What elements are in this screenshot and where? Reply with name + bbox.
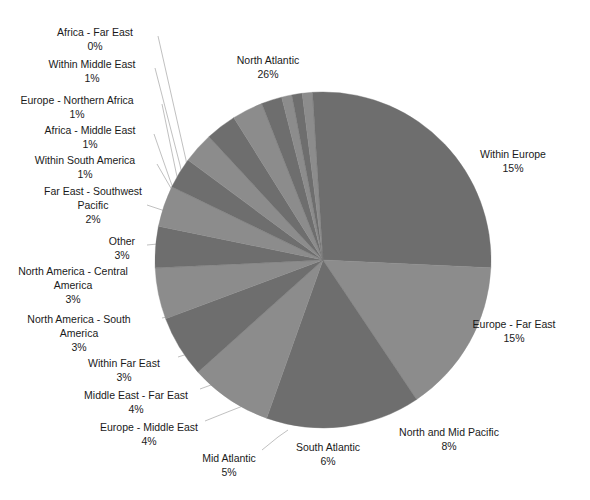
pie-chart-canvas: North Atlantic26%Within Europe15%Europe … xyxy=(0,0,590,500)
pie-slice-label-percent: 3% xyxy=(71,341,86,353)
pie-slice-label-name: Other xyxy=(109,235,136,247)
pie-slice-label-percent: 4% xyxy=(128,403,143,415)
pie-slice-label-percent: 3% xyxy=(114,249,129,261)
pie-slice-label: Within Middle East1% xyxy=(49,58,136,84)
pie-slice-label: Far East - SouthwestPacific2% xyxy=(44,185,142,225)
pie-slice-label: Europe - Middle East4% xyxy=(100,421,198,447)
pie-slice-label: Other3% xyxy=(109,235,136,261)
pie-slice-label-name: Africa - Middle East xyxy=(44,124,135,136)
pie-slice-label-percent: 5% xyxy=(221,466,236,478)
leader-line xyxy=(262,430,288,450)
pie-slice-label-name: North America - Central xyxy=(18,265,128,277)
pie-slice-label: Europe - Far East15% xyxy=(473,318,556,344)
pie-slice-label-percent: 3% xyxy=(65,293,80,305)
pie-slice-label-name: America xyxy=(60,327,99,339)
pie-slice-label-percent: 6% xyxy=(320,455,335,467)
pie-slice-label-name: Europe - Far East xyxy=(473,318,556,330)
pie-slice[interactable] xyxy=(323,92,491,268)
pie-slice-label-percent: 26% xyxy=(257,68,278,80)
pie-slice-label: Within Europe15% xyxy=(480,148,546,174)
pie-slice-label-name: Middle East - Far East xyxy=(84,389,188,401)
pie-slice-label-percent: 3% xyxy=(116,371,131,383)
pie-slice-label-name: Pacific xyxy=(78,199,109,211)
pie-slice-label: North America - SouthAmerica3% xyxy=(27,313,130,353)
pie-slice-label-name: North America - South xyxy=(27,313,130,325)
pie-slice-label: Within Far East3% xyxy=(88,357,160,383)
pie-slice-label-percent: 2% xyxy=(85,213,100,225)
pie-slice-label: South Atlantic6% xyxy=(296,441,360,467)
pie-slice-label-name: Within Europe xyxy=(480,148,546,160)
pie-slice-label-name: America xyxy=(54,279,93,291)
pie-slice-label-percent: 1% xyxy=(69,108,84,120)
pie-slice-label: Within South America1% xyxy=(35,154,136,180)
pie-slice-group xyxy=(155,92,491,428)
pie-slice-label: Africa - Middle East1% xyxy=(44,124,135,150)
pie-slice-label: Middle East - Far East4% xyxy=(84,389,188,415)
pie-chart-figure: North Atlantic26%Within Europe15%Europe … xyxy=(0,0,590,500)
pie-slice-label-percent: 15% xyxy=(503,332,524,344)
pie-slice-label-name: North and Mid Pacific xyxy=(399,426,499,438)
pie-slice-label-percent: 4% xyxy=(141,435,156,447)
pie-slice-label-percent: 1% xyxy=(82,138,97,150)
pie-slice-label: Europe - Northern Africa1% xyxy=(20,94,133,120)
pie-slice-label-name: Within Far East xyxy=(88,357,160,369)
pie-slice-label-name: North Atlantic xyxy=(237,54,299,66)
pie-slice-label: Mid Atlantic5% xyxy=(202,452,256,478)
pie-slice-label-percent: 8% xyxy=(441,440,456,452)
pie-slice-label-name: Mid Atlantic xyxy=(202,452,256,464)
pie-slice-label-name: Far East - Southwest xyxy=(44,185,142,197)
pie-slice-label-name: Africa - Far East xyxy=(57,26,133,38)
pie-slice-label-percent: 0% xyxy=(87,40,102,52)
pie-slice-label: North and Mid Pacific8% xyxy=(399,426,499,452)
pie-slice-label: Africa - Far East0% xyxy=(57,26,133,52)
pie-slice-label-name: South Atlantic xyxy=(296,441,360,453)
pie-slice-label-name: Within Middle East xyxy=(49,58,136,70)
pie-slice-label-name: Within South America xyxy=(35,154,136,166)
pie-slice-label-percent: 15% xyxy=(502,162,523,174)
pie-slice-label-percent: 1% xyxy=(77,168,92,180)
pie-slice-label-percent: 1% xyxy=(84,72,99,84)
pie-slice-label-name: Europe - Northern Africa xyxy=(20,94,133,106)
pie-slice-label: North America - CentralAmerica3% xyxy=(18,265,128,305)
pie-slice-label-name: Europe - Middle East xyxy=(100,421,198,433)
pie-slice-label: North Atlantic26% xyxy=(237,54,299,80)
